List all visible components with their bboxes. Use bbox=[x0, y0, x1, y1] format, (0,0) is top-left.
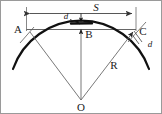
label-point-b: B bbox=[85, 28, 92, 40]
label-point-a: A bbox=[14, 23, 22, 35]
arc-geometry-figure: A B C O S d d R bbox=[0, 0, 162, 114]
radius-line-oa bbox=[30, 32, 81, 100]
label-offset-d-right: d bbox=[148, 39, 153, 49]
radius-line-oc bbox=[81, 32, 133, 100]
label-point-c: C bbox=[139, 25, 146, 37]
label-span-s: S bbox=[93, 1, 99, 13]
label-offset-d-apex: d bbox=[64, 11, 69, 21]
label-radius-r: R bbox=[110, 59, 118, 71]
label-point-o: O bbox=[77, 101, 85, 113]
